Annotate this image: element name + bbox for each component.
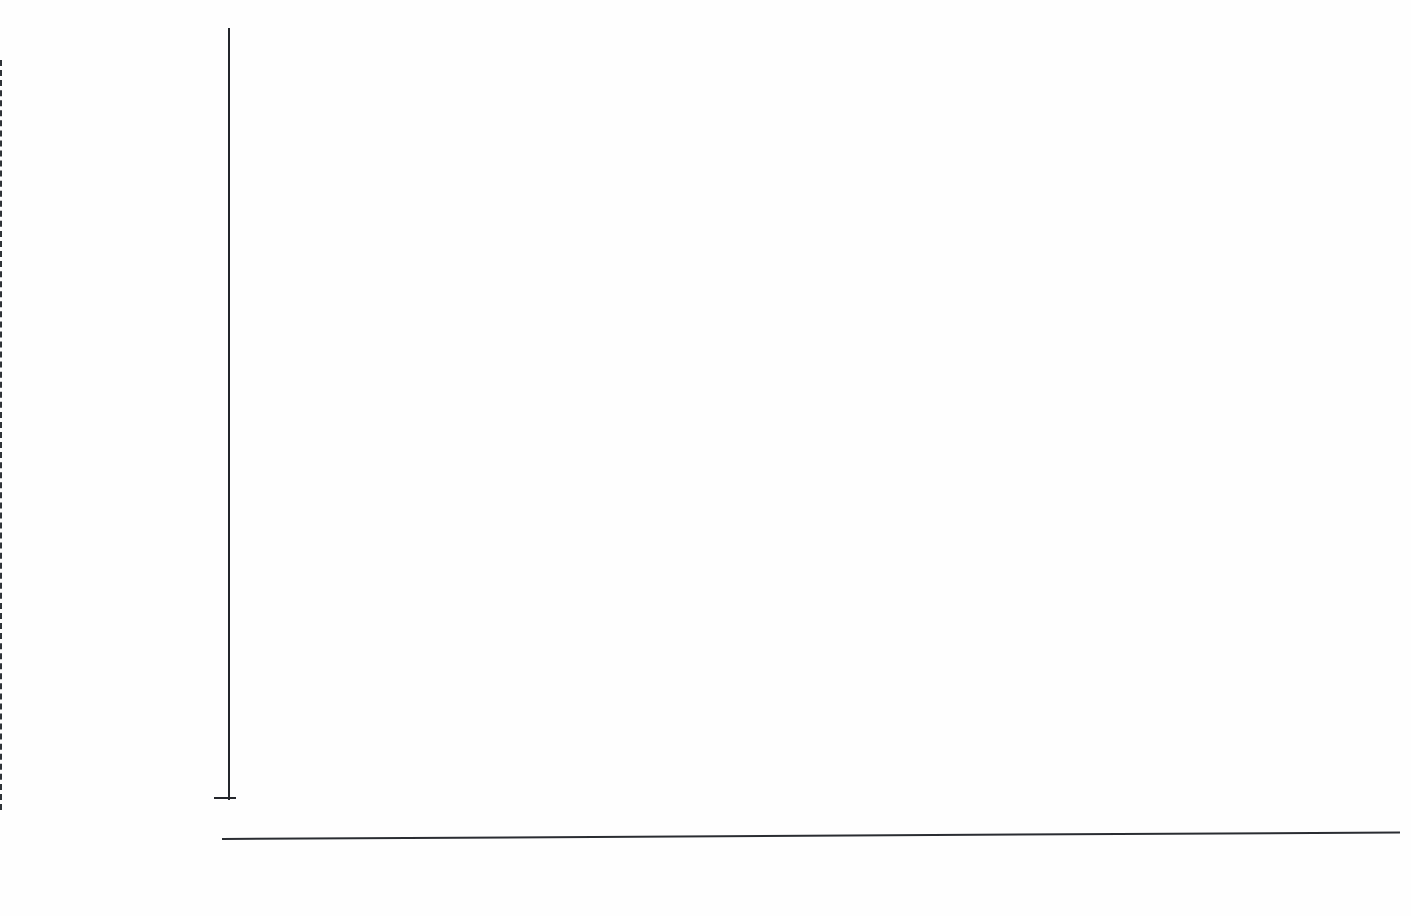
forest-plot-figure: [0, 0, 1411, 916]
x-axis-line: [222, 831, 1400, 839]
combined-axis-tick: [214, 797, 236, 799]
y-axis-line: [228, 28, 230, 800]
reference-line: [0, 60, 2, 810]
plot-area: [0, 0, 1411, 820]
